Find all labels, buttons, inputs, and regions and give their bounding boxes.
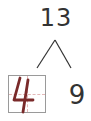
- handwritten-digit-four: [9, 76, 47, 114]
- part-number-right: 9: [66, 80, 88, 110]
- handwriting-grid-box[interactable]: [8, 75, 46, 113]
